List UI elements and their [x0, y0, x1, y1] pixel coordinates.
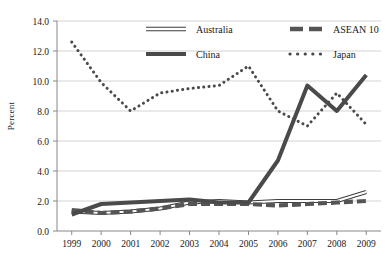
- y-tick-label: 8.0: [37, 107, 49, 117]
- y-tick-label: 2.0: [37, 197, 49, 207]
- legend-item-japan[interactable]: Japan: [290, 49, 356, 60]
- legend-label-china: China: [196, 49, 220, 60]
- x-tick-label: 2006: [268, 239, 287, 249]
- x-tick-label: 2008: [327, 239, 346, 249]
- x-tickmarks: [72, 231, 367, 235]
- x-tick-label: 1999: [62, 239, 81, 249]
- x-tick-label: 2005: [239, 239, 258, 249]
- legend-item-asean10[interactable]: ASEAN 10: [290, 24, 379, 35]
- y-tick-label: 4.0: [37, 167, 49, 177]
- y-tick-label: 6.0: [37, 137, 49, 147]
- line-chart: Percent 14.0 12.0: [0, 0, 391, 263]
- chart-canvas: 14.0 12.0 10.0 8.0 6.0 4.0 2.0 0.0 19992…: [0, 0, 391, 263]
- x-tick-label: 2004: [210, 239, 229, 249]
- x-tick-label: 2003: [180, 239, 199, 249]
- x-tick-label: 2009: [357, 239, 376, 249]
- x-tick-labels: 1999200020012002200320042005200620072008…: [62, 239, 376, 249]
- legend-label-asean10: ASEAN 10: [333, 24, 379, 35]
- y-tick-label: 12.0: [32, 47, 49, 57]
- y-tick-labels: 14.0 12.0 10.0 8.0 6.0 4.0 2.0 0.0: [32, 17, 49, 237]
- legend-label-japan: Japan: [333, 49, 356, 60]
- y-tickmarks: [53, 21, 57, 231]
- y-tick-label: 14.0: [32, 17, 49, 27]
- legend: Australia ASEAN 10 China Japan: [146, 24, 379, 60]
- x-tick-label: 2000: [92, 239, 111, 249]
- legend-item-china[interactable]: China: [146, 49, 220, 60]
- y-tick-label: 0.0: [37, 227, 49, 237]
- legend-label-australia: Australia: [196, 24, 233, 35]
- x-tick-label: 2007: [298, 239, 317, 249]
- x-tick-label: 2002: [151, 239, 170, 249]
- y-tick-label: 10.0: [32, 77, 49, 87]
- legend-item-australia[interactable]: Australia: [146, 24, 233, 35]
- series-plots: [72, 42, 367, 215]
- x-tick-label: 2001: [121, 239, 140, 249]
